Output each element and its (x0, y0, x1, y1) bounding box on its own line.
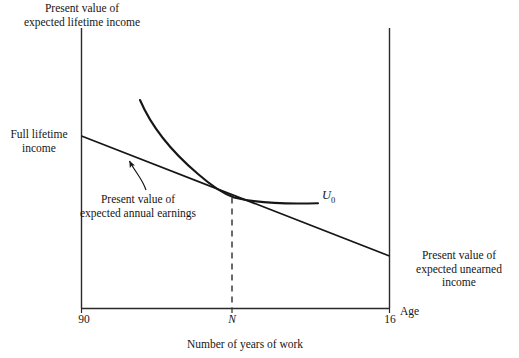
label-indifference-curve-u0: U0 (322, 189, 335, 207)
x-tick-label-right: 16 (380, 313, 400, 327)
economics-figure: Present value of expected lifetime incom… (0, 0, 519, 358)
plot-area (0, 0, 519, 358)
indifference-curve (140, 100, 318, 204)
x-tick-label-left: 90 (74, 313, 94, 327)
y-axis-title: Present value of expected lifetime incom… (8, 2, 156, 29)
age-axis-label: Age (400, 305, 419, 319)
annotation-leader (130, 161, 147, 190)
x-axis-title: Number of years of work (140, 338, 350, 352)
u0-letter: U (322, 188, 331, 202)
label-full-lifetime-income: Full lifetime income (2, 128, 76, 155)
label-present-value-annual-earnings: Present value of expected annual earning… (62, 193, 214, 220)
u0-subscript: 0 (331, 195, 335, 205)
x-tick-label-optimum: N (222, 313, 242, 327)
label-present-value-unearned-income: Present value of expected unearned incom… (398, 249, 519, 290)
